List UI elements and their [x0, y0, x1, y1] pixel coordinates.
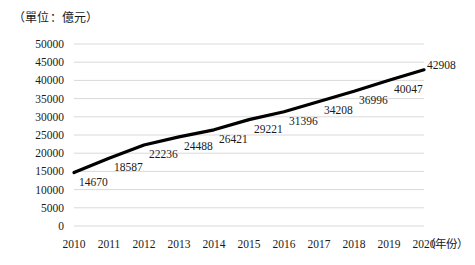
data-point-label: 31396 — [289, 115, 318, 127]
y-axis-tick-label: 20000 — [16, 147, 64, 159]
x-axis-tick-label: 2010 — [54, 238, 94, 250]
data-point-label: 18587 — [114, 161, 143, 173]
y-axis-tick-label: 45000 — [16, 56, 64, 68]
data-point-label: 34208 — [324, 104, 353, 116]
x-axis-tick-label: 2011 — [89, 238, 129, 250]
y-axis-tick-label: 10000 — [16, 184, 64, 196]
y-axis-tick-label: 35000 — [16, 93, 64, 105]
data-point-label: 29221 — [254, 123, 283, 135]
y-axis-tick-label: 40000 — [16, 74, 64, 86]
data-point-label: 36996 — [359, 94, 388, 106]
x-axis-tick-label: 2016 — [264, 238, 304, 250]
y-axis-tick-label: 15000 — [16, 165, 64, 177]
x-axis-tick-label: 2014 — [194, 238, 234, 250]
x-axis-tick-label: 2018 — [334, 238, 374, 250]
x-axis-title: （年份） — [424, 238, 468, 250]
data-point-label: 14670 — [79, 176, 108, 188]
data-point-label: 42908 — [427, 59, 456, 71]
gridlines — [74, 44, 424, 226]
series-line-2010-2020 — [74, 70, 424, 173]
x-axis-tick-label: 2012 — [124, 238, 164, 250]
x-axis-tick-label: 2017 — [299, 238, 339, 250]
y-axis-tick-label: 30000 — [16, 111, 64, 123]
y-axis-tick-label: 25000 — [16, 129, 64, 141]
y-axis-tick-label: 5000 — [16, 202, 64, 214]
data-point-label: 24488 — [184, 140, 213, 152]
x-axis-tick-label: 2013 — [159, 238, 199, 250]
line-chart: （單位：億元） 50000450004000035000300002500020… — [0, 0, 475, 265]
y-axis-tick-label: 50000 — [16, 38, 64, 50]
data-point-label: 40047 — [394, 83, 423, 95]
x-axis-tick-label: 2019 — [369, 238, 409, 250]
data-point-label: 26421 — [219, 133, 248, 145]
x-axis-tick-label: 2015 — [229, 238, 269, 250]
y-axis-tick-label: 0 — [16, 220, 64, 232]
data-point-label: 22236 — [149, 148, 178, 160]
